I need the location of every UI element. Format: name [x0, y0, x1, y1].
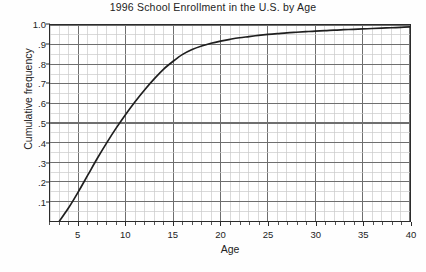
plot-area	[49, 24, 411, 222]
y-axis-label: Cumulative frequency	[22, 19, 34, 179]
x-tick-mark-minor	[211, 222, 212, 225]
curve-path	[59, 27, 410, 221]
x-axis-label: Age	[49, 243, 411, 255]
x-tick-mark	[78, 222, 79, 226]
x-tick-mark-minor	[401, 222, 402, 225]
y-tick-mark	[46, 24, 50, 25]
x-tick-mark-minor	[382, 222, 383, 225]
x-tick-mark-minor	[97, 222, 98, 225]
x-tick-label: 30	[310, 229, 321, 240]
x-tick-mark-minor	[287, 222, 288, 225]
x-tick-mark	[173, 222, 174, 226]
x-tick-mark	[363, 222, 364, 226]
x-tick-mark-minor	[106, 222, 107, 225]
y-tick-mark	[46, 123, 50, 124]
x-tick-mark-minor	[240, 222, 241, 225]
x-tick-mark-minor	[392, 222, 393, 225]
y-tick-mark	[46, 103, 50, 104]
cumulative-frequency-curve	[50, 25, 410, 221]
y-tick-label: .1	[16, 197, 46, 208]
x-tick-mark-minor	[344, 222, 345, 225]
x-tick-mark-minor	[297, 222, 298, 225]
x-tick-mark-minor	[354, 222, 355, 225]
x-tick-mark	[268, 222, 269, 226]
x-tick-mark-minor	[249, 222, 250, 225]
x-tick-mark-minor	[59, 222, 60, 225]
y-tick-mark	[46, 162, 50, 163]
x-tick-label: 15	[168, 229, 179, 240]
x-tick-mark-minor	[278, 222, 279, 225]
x-tick-mark-minor	[163, 222, 164, 225]
y-tick-mark	[46, 83, 50, 84]
x-tick-label: 25	[263, 229, 274, 240]
x-tick-label: 10	[120, 229, 131, 240]
y-tick-mark	[46, 202, 50, 203]
y-tick-mark	[46, 182, 50, 183]
x-tick-mark-minor	[373, 222, 374, 225]
x-tick-label: 20	[215, 229, 226, 240]
chart-title: 1996 School Enrollment in the U.S. by Ag…	[0, 1, 426, 13]
x-tick-label: 5	[75, 229, 80, 240]
x-tick-mark	[411, 222, 412, 226]
x-tick-mark-minor	[144, 222, 145, 225]
y-tick-mark	[46, 63, 50, 64]
x-tick-mark-minor	[49, 222, 50, 225]
x-tick-mark-minor	[306, 222, 307, 225]
x-tick-mark	[125, 222, 126, 226]
y-tick-mark	[46, 142, 50, 143]
y-tick-mark	[46, 43, 50, 44]
x-tick-mark	[220, 222, 221, 226]
x-tick-mark-minor	[325, 222, 326, 225]
x-tick-mark-minor	[182, 222, 183, 225]
x-tick-mark-minor	[335, 222, 336, 225]
x-tick-mark-minor	[259, 222, 260, 225]
x-tick-mark-minor	[68, 222, 69, 225]
x-tick-mark-minor	[87, 222, 88, 225]
x-tick-mark-minor	[135, 222, 136, 225]
x-tick-mark-minor	[154, 222, 155, 225]
chart-figure: 1996 School Enrollment in the U.S. by Ag…	[0, 0, 426, 272]
x-tick-mark-minor	[230, 222, 231, 225]
x-tick-mark-minor	[192, 222, 193, 225]
x-tick-mark	[316, 222, 317, 226]
x-tick-label: 35	[358, 229, 369, 240]
x-tick-mark-minor	[201, 222, 202, 225]
x-tick-mark-minor	[116, 222, 117, 225]
x-tick-label: 40	[406, 229, 417, 240]
